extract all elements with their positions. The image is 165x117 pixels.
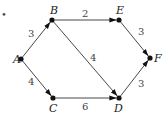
edge-weight-b-d: 4 — [90, 52, 96, 63]
node-d — [116, 95, 121, 100]
directed-graph: • 3424633 ABCDEF — [0, 0, 165, 117]
node-label-f: F — [153, 52, 162, 65]
edge-weight-e-f: 3 — [138, 26, 144, 37]
node-b — [49, 17, 54, 22]
edges-group — [23, 20, 149, 98]
edge-weight-a-b: 3 — [28, 28, 34, 39]
edge-weight-d-f: 3 — [138, 78, 144, 89]
edge-b-d — [54, 22, 118, 96]
node-e — [116, 17, 121, 22]
node-f — [147, 55, 152, 60]
edge-weight-c-d: 6 — [82, 101, 88, 112]
node-label-e: E — [115, 4, 124, 17]
bullet-marker: • — [1, 9, 7, 20]
edge-weight-a-c: 4 — [28, 76, 34, 87]
edge-weight-b-e: 2 — [82, 8, 88, 19]
node-label-a: A — [12, 53, 21, 66]
edge-a-b — [23, 22, 51, 57]
edge-a-c — [23, 61, 52, 96]
node-label-b: B — [49, 4, 58, 17]
node-label-c: C — [49, 102, 58, 115]
node-c — [50, 95, 55, 100]
node-label-d: D — [113, 102, 123, 115]
